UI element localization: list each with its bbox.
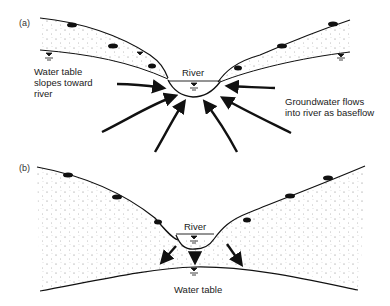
river-bed-a <box>168 80 220 97</box>
water-table-slope-annotation: Water table slopes toward river <box>34 66 93 99</box>
water-table-symbol-icon <box>190 83 198 90</box>
groundwater-flow-arrows <box>102 84 291 152</box>
river-label-b: River <box>184 221 206 232</box>
river-groundwater-diagram <box>0 0 390 306</box>
baseflow-annotation: Groundwater flows into river as baseflow <box>285 96 374 118</box>
water-table-symbol-icon <box>337 54 345 60</box>
water-table-symbol-icon <box>45 53 53 60</box>
river-label-a: River <box>182 67 204 78</box>
water-table-label-b: Water table <box>174 284 222 295</box>
panel-label-b: (b) <box>19 163 30 174</box>
panel-label-a: (a) <box>19 18 30 29</box>
right-aquifer-wedge <box>222 22 350 80</box>
water-table-symbol-icon <box>190 268 198 275</box>
